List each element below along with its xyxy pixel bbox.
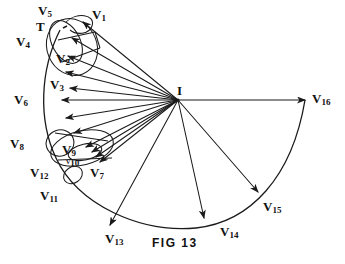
vector-label-base: V: [16, 34, 25, 49]
vector-label-v3: V3: [50, 78, 64, 91]
vector-label-subscript: 13: [114, 237, 123, 247]
ray-fan: [62, 22, 305, 225]
ray-v15: [178, 100, 258, 192]
apex-point: [176, 98, 179, 101]
vector-label-subscript: 16: [321, 97, 330, 107]
vector-label-v9: V9: [62, 143, 76, 156]
figure-13-diagram: [0, 0, 345, 264]
vector-label-v11: V11: [40, 189, 58, 202]
lower-tube-cluster: [42, 124, 117, 188]
vector-label-base: V: [38, 3, 47, 18]
vector-label-v6: V6: [14, 93, 28, 106]
vector-label-v4: V4: [16, 35, 30, 48]
vector-label-subscript: 4: [25, 40, 30, 50]
vector-label-v13: V13: [105, 232, 123, 245]
vector-label-v8: V8: [10, 137, 24, 150]
vector-label-base: V: [312, 91, 321, 106]
vector-label-base: V: [56, 51, 65, 66]
vector-label-subscript: 3: [59, 83, 64, 93]
vector-label-base: V: [90, 165, 99, 180]
ray-v14: [178, 100, 204, 218]
vector-label-base: V: [50, 77, 59, 92]
vector-label-v1: V1: [92, 8, 106, 21]
vector-label-base: V: [105, 231, 114, 246]
tangent-tick: [63, 26, 67, 28]
apex-label: I: [177, 84, 182, 97]
vector-label-subscript: 7: [99, 171, 104, 181]
vector-label-base: V: [62, 142, 71, 157]
ray-v5: [72, 38, 178, 100]
vector-label-base: V: [92, 7, 101, 22]
vector-label-v7: V7: [90, 166, 104, 179]
lower-ellipse-outer: [47, 124, 117, 172]
vector-label-base: V: [10, 136, 19, 151]
vector-label-subscript: 2: [65, 57, 70, 67]
vector-label-subscript: 1: [101, 13, 106, 23]
ray-v7: [100, 100, 178, 162]
ray-v10: [92, 100, 178, 152]
vector-label-subscript: 15: [272, 205, 281, 215]
vector-label-base: V: [220, 224, 229, 239]
vector-label-v2: V2: [56, 52, 70, 65]
vector-label-v5: V5: [38, 4, 52, 17]
vector-label-v15: V15: [263, 200, 281, 213]
vector-label-v16: V16: [312, 92, 330, 105]
vector-label-subscript: 14: [229, 230, 238, 240]
vector-label-v12: V12: [30, 166, 48, 179]
vector-label-subscript: 11: [49, 194, 58, 204]
vector-label-v10: V10: [66, 157, 79, 166]
vector-label-subscript: 12: [39, 171, 48, 181]
vector-label-subscript: 8: [19, 142, 24, 152]
tangent-label: T: [36, 20, 45, 33]
ray-v12: [96, 100, 178, 157]
vector-label-base: V: [40, 188, 49, 203]
vector-label-v14: V14: [220, 225, 238, 238]
figure-caption: FIG 13: [152, 236, 198, 250]
vector-label-base: V: [263, 199, 272, 214]
vector-label-base: V: [30, 165, 39, 180]
vector-label-subscript: 5: [47, 9, 52, 19]
vector-label-subscript: 10: [70, 158, 79, 168]
vector-label-subscript: 6: [23, 98, 28, 108]
vector-label-base: V: [14, 92, 23, 107]
